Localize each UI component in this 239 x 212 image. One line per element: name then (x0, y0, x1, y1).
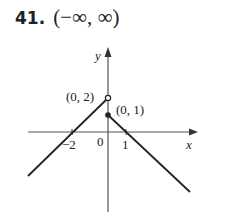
graph: y x −2 0 1 (0, 2) (0, 1) (0, 0, 239, 212)
x-axis-label: x (185, 137, 192, 152)
tick-label-1: 1 (122, 137, 129, 152)
y-axis-label: y (93, 48, 101, 63)
tick-label-neg2: −2 (62, 137, 76, 152)
filled-dot-marker (105, 112, 111, 118)
point-label-closed: (0, 1) (116, 102, 144, 117)
line-right-piece (108, 115, 190, 192)
y-axis-arrow-icon (105, 47, 112, 57)
point-label-open: (0, 2) (66, 89, 94, 104)
x-axis-arrow-icon (189, 129, 198, 136)
tick-label-0: 0 (97, 134, 104, 149)
open-circle-marker (105, 95, 110, 100)
